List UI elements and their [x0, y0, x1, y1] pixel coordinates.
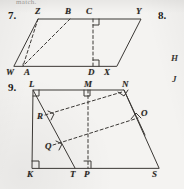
vertex-label-R: R	[37, 112, 43, 121]
figure-9-drawing	[0, 0, 184, 189]
problem-number-9: 9.	[8, 82, 16, 93]
vertex-label-P: P	[84, 170, 90, 179]
vertex-label-M: M	[84, 80, 92, 89]
scanned-textbook-page: match. 7. Z B C Y W A D X 8. H J 9. L M …	[0, 0, 184, 189]
vertex-label-L: L	[29, 80, 35, 89]
problem-number-7: 7.	[8, 10, 16, 21]
vertex-label-Z: Z	[35, 7, 41, 16]
fig9-trapezoid	[32, 90, 159, 168]
vertex-label-X: X	[104, 68, 110, 77]
vertex-label-T: T	[70, 170, 76, 179]
vertex-label-O: O	[141, 109, 148, 118]
vertex-label-Q: Q	[45, 142, 52, 151]
vertex-label-D: D	[88, 68, 95, 77]
vertex-label-B: B	[65, 7, 71, 16]
vertex-label-S: S	[152, 170, 157, 179]
fig9-right-angle-K	[32, 161, 39, 168]
vertex-label-J: J	[172, 75, 177, 84]
problem-number-8: 8.	[158, 10, 166, 21]
vertex-label-K: K	[27, 170, 33, 179]
fig9-right-angle-M	[84, 90, 90, 96]
vertex-label-W: W	[6, 68, 14, 77]
vertex-label-H: H	[171, 54, 178, 63]
vertex-label-N: N	[122, 80, 129, 89]
fig9-segment-QO	[53, 118, 138, 145]
cut-off-header-text: match.	[16, 0, 37, 6]
vertex-label-Y: Y	[136, 7, 142, 16]
fig9-segment-LT	[33, 90, 75, 168]
vertex-label-A: A	[24, 68, 30, 77]
vertex-label-C: C	[86, 7, 92, 16]
